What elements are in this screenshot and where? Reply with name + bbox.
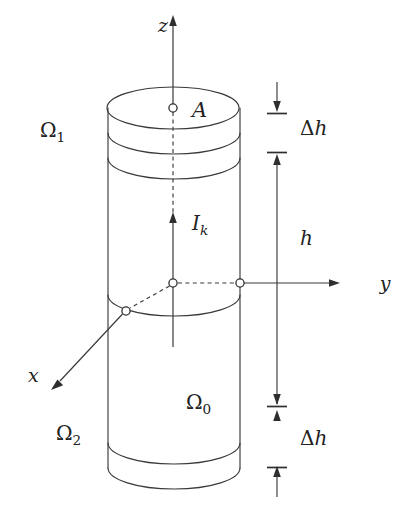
omega-1-sub: 1 [57, 129, 66, 145]
current-label: Ik [191, 211, 208, 238]
arc-omega2-boundary [108, 443, 240, 464]
delta-h-top-delta: Δ [300, 116, 314, 140]
delta-h-top-h: h [314, 116, 327, 140]
x-axis-arrowhead [51, 379, 63, 390]
z-axis [169, 15, 177, 347]
current-label-sub: k [200, 222, 208, 238]
figure-container: z y x A Ik Ω1 Ω2 Ω0 Δh h Δh [0, 0, 411, 513]
omega-1-label: Ω1 [40, 118, 65, 145]
point-a-label: A [190, 98, 207, 122]
omega-0-sub: 0 [203, 401, 212, 417]
delta-h-bottom-label: Δh [300, 426, 327, 450]
h-arrow-down [273, 394, 281, 405]
x-axis-hidden-dashed [130, 286, 170, 308]
y-axis-arrowhead [329, 279, 340, 287]
delta-h-top-label: Δh [300, 116, 327, 140]
cylinder-diagram: z y x A Ik Ω1 Ω2 Ω0 Δh h Δh [0, 0, 411, 513]
h-label: h [300, 226, 313, 250]
y-axis-surface-marker [236, 279, 244, 287]
omega-1-base: Ω [40, 118, 57, 142]
bottom-cap-arc [108, 468, 240, 489]
origin-marker [169, 279, 177, 287]
arc-omega1-boundary [108, 158, 240, 179]
omega-0-base: Ω [186, 390, 203, 414]
omega-2-sub: 2 [73, 432, 82, 448]
z-axis-arrowhead [169, 15, 177, 26]
delta-h-top-arrow-down [273, 101, 281, 112]
x-axis-label: x [28, 364, 39, 386]
delta-h-bottom-delta: Δ [300, 426, 314, 450]
x-axis-shaft [60, 314, 123, 381]
diagram-labels: z y x A Ik Ω1 Ω2 Ω0 Δh h Δh [28, 14, 391, 450]
arc-delta-h-top-lower [108, 133, 240, 154]
z-axis-label: z [157, 14, 169, 36]
delta-h-bottom-arrow-up-top [273, 410, 281, 421]
cylinder-body [108, 108, 240, 468]
x-axis-surface-marker [122, 307, 130, 315]
y-axis [178, 279, 340, 287]
y-axis-label: y [379, 272, 391, 294]
dimension-annotations [267, 82, 287, 497]
delta-h-bottom-h: h [314, 426, 327, 450]
omega-2-label: Ω2 [56, 421, 81, 448]
omega-0-label: Ω0 [186, 390, 211, 417]
x-axis [51, 286, 170, 390]
point-a-marker [169, 104, 177, 112]
omega-2-base: Ω [56, 421, 73, 445]
